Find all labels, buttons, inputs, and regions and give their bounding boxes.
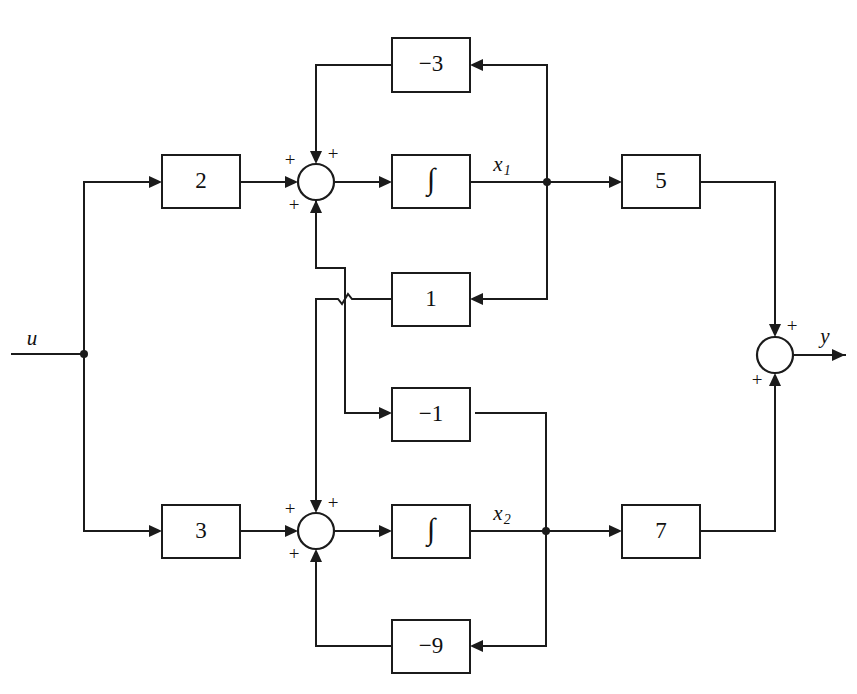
arrow-out-y xyxy=(832,349,845,361)
wire-neg9-out xyxy=(316,556,392,646)
diagram-svg: −32∫51−13∫7−9 ++++++++ uyx1x2 xyxy=(0,0,857,694)
gain-5-label: 5 xyxy=(655,168,667,193)
blocks-layer: −32∫51−13∫7−9 xyxy=(162,38,700,673)
arrow-into-integ2 xyxy=(379,525,392,537)
block-gain-7[interactable]: 7 xyxy=(622,505,700,558)
arrow-into-sum2-l xyxy=(285,525,298,537)
wire-x2-up-to-neg1 xyxy=(476,413,546,531)
block-gain-5[interactable]: 5 xyxy=(622,155,700,208)
label-u: u xyxy=(27,326,38,350)
block-gain-neg9[interactable]: −9 xyxy=(392,620,470,673)
gain-1-label: 1 xyxy=(425,286,437,311)
arrowheads-layer xyxy=(149,59,845,652)
wire-u-up-to-gain2 xyxy=(84,182,156,354)
arrow-into-neg9 xyxy=(470,640,483,652)
integ-2-label: ∫ xyxy=(425,512,437,548)
arrow-into-gain5 xyxy=(609,176,622,188)
arrow-into-sum1-b xyxy=(310,200,322,213)
gain-7-label: 7 xyxy=(655,518,667,543)
gain-neg9-label: −9 xyxy=(419,633,443,658)
dot-x1 xyxy=(543,178,551,186)
arrow-into-sum1-l xyxy=(285,176,298,188)
wire-x2-down-to-neg9 xyxy=(476,531,546,646)
label-y: y xyxy=(818,324,830,348)
arrow-into-gain3 xyxy=(149,525,162,537)
arrow-into-sum2-b xyxy=(310,549,322,562)
gain-neg3-label: −3 xyxy=(419,51,443,76)
wire-u-down-to-gain3 xyxy=(84,354,156,531)
summer-output-sign-1: + xyxy=(752,369,763,390)
arrow-into-integ1 xyxy=(379,176,392,188)
arrow-into-sum3-b xyxy=(769,373,781,386)
dot-u xyxy=(80,350,88,358)
block-gain-3[interactable]: 3 xyxy=(162,505,240,558)
wire-x1-down-to-gain1 xyxy=(476,182,547,299)
wire-x1-up-to-neg3 xyxy=(476,65,547,182)
integ-1-label: ∫ xyxy=(425,162,437,198)
summer-bottom-circle xyxy=(298,513,334,549)
arrow-into-sum3-t xyxy=(769,324,781,337)
wire-gain7-to-summer3 xyxy=(700,379,775,531)
summer-bottom-sign-2: + xyxy=(289,543,300,564)
summer-top-sign-0: + xyxy=(285,149,296,170)
arrow-into-gain2 xyxy=(149,176,162,188)
block-gain-neg1[interactable]: −1 xyxy=(392,388,470,441)
summer-top-sign-1: + xyxy=(328,143,339,164)
summer-top-sign-2: + xyxy=(289,194,300,215)
arrow-into-sum2-t xyxy=(310,500,322,513)
block-integ-2[interactable]: ∫ xyxy=(392,505,470,558)
summer-output-circle xyxy=(757,337,793,373)
block-gain-1[interactable]: 1 xyxy=(392,273,470,326)
gain-neg1-label: −1 xyxy=(419,401,443,426)
dot-x2 xyxy=(542,527,550,535)
summer-bottom-sign-0: + xyxy=(285,498,296,519)
label-x1: x1 xyxy=(492,152,510,178)
arrow-into-neg3 xyxy=(470,59,483,71)
gain-3-label: 3 xyxy=(195,518,207,543)
summer-output-sign-0: + xyxy=(787,315,798,336)
arrow-into-gain7 xyxy=(609,525,622,537)
block-diagram-canvas: −32∫51−13∫7−9 ++++++++ uyx1x2 xyxy=(0,0,857,694)
arrow-into-sum1-t xyxy=(310,151,322,164)
summer-top-circle xyxy=(298,164,334,200)
block-gain-neg3[interactable]: −3 xyxy=(392,38,470,92)
block-integ-1[interactable]: ∫ xyxy=(392,155,470,208)
block-gain-2[interactable]: 2 xyxy=(162,155,240,208)
wire-gain1-out-hop xyxy=(316,294,392,504)
wire-gain5-to-summer3 xyxy=(700,182,775,331)
wire-summer1-bottom-down xyxy=(316,200,386,413)
label-x2: x2 xyxy=(492,501,510,527)
gain-2-label: 2 xyxy=(195,168,207,193)
arrow-into-neg1 xyxy=(379,407,392,419)
summer-bottom-sign-1: + xyxy=(328,492,339,513)
arrow-into-gain1 xyxy=(470,293,483,305)
summing-junctions-layer: ++++++++ xyxy=(285,143,798,564)
